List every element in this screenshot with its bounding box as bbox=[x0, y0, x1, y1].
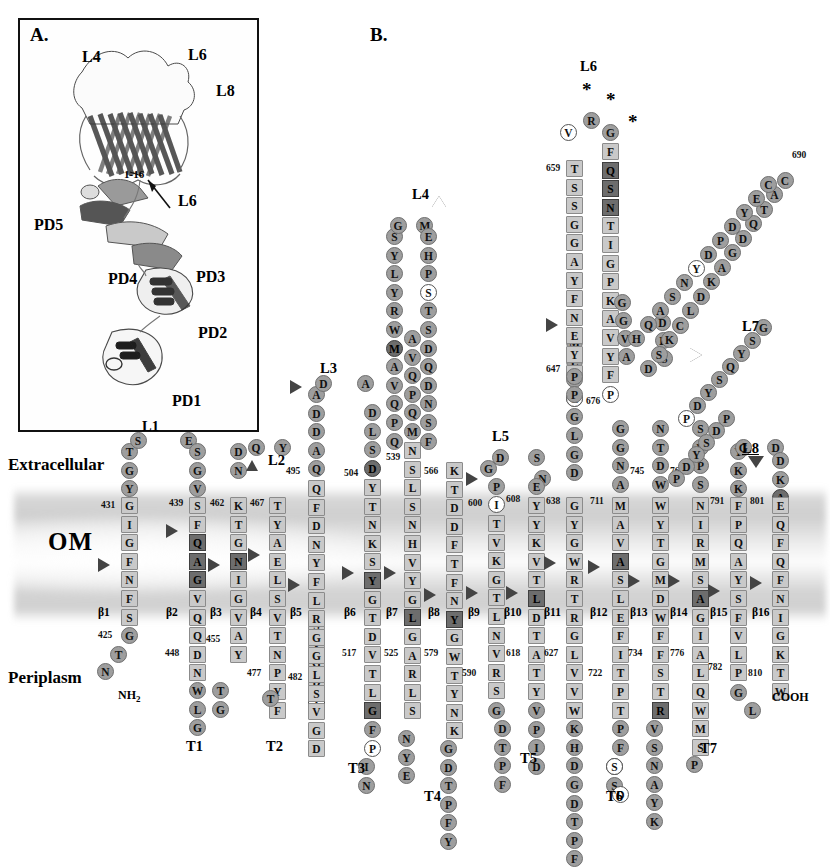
l4-right-res: H bbox=[420, 247, 437, 264]
l4-left-res: W bbox=[386, 321, 403, 338]
b14-res: R bbox=[692, 534, 709, 551]
b9-g-res: G bbox=[488, 702, 505, 719]
b13-dn-res: A bbox=[646, 776, 663, 793]
b7-res: A bbox=[404, 647, 421, 664]
marker-l5 bbox=[466, 472, 478, 486]
residue-number: 482 bbox=[288, 672, 302, 682]
l3-left-res: D bbox=[308, 405, 325, 422]
b5-res: D bbox=[308, 517, 325, 534]
b12-res: S bbox=[612, 571, 629, 588]
b14-res: I bbox=[692, 627, 709, 644]
b9-p: P bbox=[488, 478, 505, 495]
l4-left-res: V bbox=[386, 377, 403, 394]
marker-l7 bbox=[690, 348, 702, 362]
b6-res: T bbox=[364, 609, 381, 626]
l6-left-res: S bbox=[566, 179, 583, 196]
b8-dn-res: T bbox=[440, 777, 457, 794]
b10-res: Y bbox=[528, 516, 545, 533]
b15-res: Q bbox=[730, 534, 747, 551]
b4-res: Y bbox=[269, 516, 286, 533]
l6-left-res: T bbox=[566, 160, 583, 177]
b13-res: T bbox=[652, 683, 669, 700]
b1-res: F bbox=[121, 590, 138, 607]
l7-chain1-res: K bbox=[661, 331, 678, 348]
b8-res: D bbox=[446, 518, 463, 535]
b6-res: S bbox=[364, 553, 381, 570]
b16-up-res: K bbox=[772, 471, 789, 488]
b12-res: V bbox=[612, 534, 629, 551]
b9-res: V bbox=[488, 534, 505, 551]
b13-res: W bbox=[652, 609, 669, 626]
b16-up-res: D bbox=[772, 452, 789, 469]
b11-dn-res: K bbox=[566, 720, 583, 737]
l6-right-res: P bbox=[602, 273, 619, 290]
b2-res: F bbox=[189, 516, 206, 533]
l6-right-res: N bbox=[602, 199, 619, 216]
b11-res: G bbox=[566, 627, 583, 644]
b16-res: G bbox=[772, 627, 789, 644]
strand-label-b7: β7 bbox=[386, 606, 398, 618]
b11-dn-res: D bbox=[566, 757, 583, 774]
marker-b3 bbox=[208, 558, 220, 572]
b2-res: V bbox=[189, 590, 206, 607]
b6-res: D bbox=[364, 628, 381, 645]
b2-res: A bbox=[189, 553, 206, 570]
b8-res: F bbox=[446, 536, 463, 553]
residue-number: 525 bbox=[384, 648, 398, 658]
strand-label-b10: β10 bbox=[504, 606, 522, 618]
b9-res: N bbox=[488, 627, 505, 644]
b9-dn-res: F bbox=[494, 776, 511, 793]
b1-g-res: G bbox=[121, 627, 138, 644]
l6-left-res: E bbox=[566, 327, 583, 344]
loop-label-l1: L1 bbox=[142, 418, 159, 435]
strand-label-b2: β2 bbox=[166, 606, 178, 618]
b10-res: Y bbox=[528, 497, 545, 514]
residue-number: 659 bbox=[546, 163, 560, 173]
b1-up-res: G bbox=[121, 462, 138, 479]
periplasm-label: Periplasm bbox=[8, 668, 82, 688]
b8-res: T bbox=[446, 667, 463, 684]
b5-res: D bbox=[308, 740, 325, 757]
l6-right-res: F bbox=[602, 143, 619, 160]
b13-res: R bbox=[652, 702, 669, 719]
l6-right-res: Y bbox=[602, 348, 619, 365]
b13-up-res: D bbox=[652, 457, 669, 474]
b13-res: F bbox=[652, 627, 669, 644]
b10-dn-res: P bbox=[528, 721, 545, 738]
l6-right-res: Q bbox=[602, 162, 619, 179]
l7-chain2-res: C bbox=[760, 176, 777, 193]
strand-label-b14: β14 bbox=[670, 606, 688, 618]
b5-res: L bbox=[308, 592, 325, 609]
b6-up-res: L bbox=[364, 423, 381, 440]
b7-res: G bbox=[404, 628, 421, 645]
b7-res: V bbox=[404, 554, 421, 571]
l7-chain2-res: H bbox=[628, 330, 645, 347]
b7-res: N bbox=[404, 516, 421, 533]
b13-dn-res: V bbox=[646, 720, 663, 737]
b8-dn-res: D bbox=[440, 759, 457, 776]
panel-b-label: B. bbox=[370, 24, 387, 46]
b10-dn-res: V bbox=[528, 702, 545, 719]
b11-res: G bbox=[566, 497, 583, 514]
marker-b12 bbox=[588, 560, 600, 574]
b10-res: T bbox=[528, 627, 545, 644]
l6-p2: P bbox=[602, 386, 619, 403]
b3-up-res: D bbox=[230, 443, 247, 460]
turn-label-t6: T6 bbox=[606, 788, 623, 805]
residue-number: 627 bbox=[544, 648, 558, 658]
l3-left-res: D bbox=[308, 423, 325, 440]
b12-up-res: G bbox=[612, 439, 629, 456]
b12-dn-res: P bbox=[612, 720, 629, 737]
strand-label-b11: β11 bbox=[544, 606, 561, 618]
b11-x-res: T bbox=[566, 813, 583, 830]
b7-res: Y bbox=[404, 572, 421, 589]
l7-chain1-res: C bbox=[777, 172, 794, 189]
b4-res: T bbox=[269, 497, 286, 514]
b3-res: T bbox=[230, 516, 247, 533]
l6-left-res: S bbox=[566, 197, 583, 214]
b3-tg-res: G bbox=[212, 701, 229, 718]
b6-up-res: D bbox=[364, 404, 381, 421]
b14-res: I bbox=[692, 516, 709, 533]
b1-t-res: T bbox=[110, 646, 127, 663]
residue-number: 647 bbox=[546, 364, 560, 374]
